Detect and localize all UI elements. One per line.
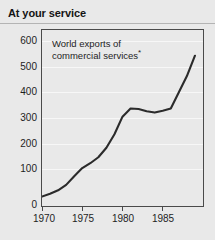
x-tick-mark-1970 — [42, 207, 43, 211]
x-tick-label-1985: 1985 — [152, 213, 174, 224]
y-tick-label-100: 100 — [1, 163, 37, 174]
series-line-world-exports — [42, 56, 195, 197]
annotation-line-2: commercial services — [52, 50, 138, 61]
x-tick-label-1970: 1970 — [33, 213, 55, 224]
x-tick-label-1980: 1980 — [112, 213, 134, 224]
x-tick-label-1975: 1975 — [72, 213, 94, 224]
y-tick-label-0: 0 — [1, 199, 37, 210]
x-tick-mark-1975 — [82, 207, 83, 211]
annotation-footnote-marker: * — [138, 47, 141, 56]
y-tick-label-600: 600 — [1, 35, 37, 46]
chart-figure: At your service 600 500 400 300 200 100 … — [0, 0, 215, 240]
chart-annotation: World exports of commercial services* — [52, 38, 141, 61]
y-axis: 600 500 400 300 200 100 0 — [0, 0, 37, 240]
annotation-line-1: World exports of — [52, 38, 121, 49]
y-tick-label-500: 500 — [1, 61, 37, 72]
x-tick-mark-1980 — [122, 207, 123, 211]
y-tick-label-400: 400 — [1, 86, 37, 97]
x-tick-mark-1985 — [162, 207, 163, 211]
y-tick-label-200: 200 — [1, 138, 37, 149]
y-tick-label-300: 300 — [1, 112, 37, 123]
